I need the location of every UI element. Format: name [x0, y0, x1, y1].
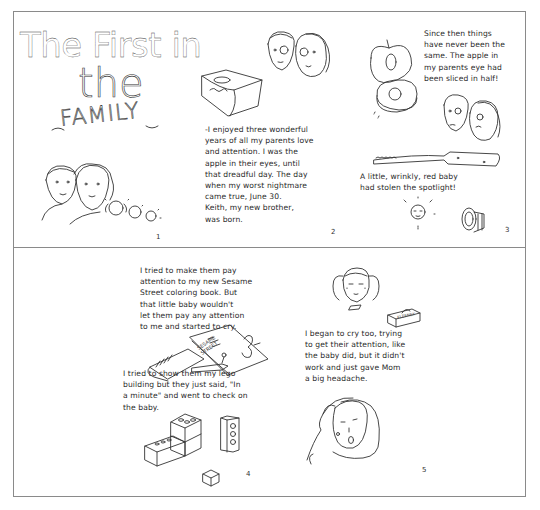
panel-3-caption-top: Since then things have never been the sa…: [424, 28, 524, 84]
title-line-1: The First in: [20, 25, 201, 65]
title-flourish-icon: [50, 118, 160, 138]
crying-girl-icon: [331, 266, 379, 314]
knife-icon: [372, 152, 502, 170]
panel-4-caption-top: I tried to make them pay attention to my…: [140, 265, 275, 332]
parents-faces-icon: [262, 30, 332, 85]
bassinet-icon: [200, 68, 265, 118]
lego-bricks-icon: [143, 412, 223, 487]
page-number-4: 4: [246, 470, 250, 478]
page-number-5: 5: [422, 466, 426, 474]
page-number-2: 2: [331, 228, 335, 236]
panel-5-caption: I began to cry too, trying to get their …: [305, 328, 455, 384]
sliced-apple-icon: [365, 36, 425, 124]
spotlight-icon: [458, 204, 490, 234]
baby-in-spotlight-icon: [400, 196, 440, 232]
page-number-3: 3: [505, 226, 509, 234]
lego-tall-brick-icon: [219, 414, 243, 454]
page-number-1: 1: [156, 233, 160, 241]
panel-2-caption: -I enjoyed three wonderful years of all …: [205, 124, 355, 225]
parents-sad-faces-icon: [440, 95, 505, 145]
panel-4-caption-bottom: I tried to show them my lego building bu…: [123, 368, 273, 413]
panel-3-caption-bottom: A little, wrinkly, red baby had stolen t…: [360, 171, 510, 193]
mom-headache-icon: [305, 388, 390, 468]
family-portrait-icon: [40, 160, 170, 230]
